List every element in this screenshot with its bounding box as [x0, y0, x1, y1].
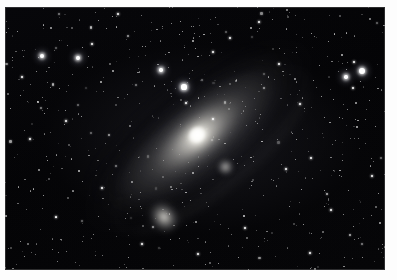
star	[117, 13, 120, 16]
star	[299, 103, 301, 105]
star	[40, 54, 44, 58]
star	[197, 253, 199, 255]
star	[309, 252, 311, 254]
star	[285, 168, 288, 171]
night-sky-plate	[5, 7, 385, 270]
star	[21, 76, 23, 78]
star	[344, 75, 347, 78]
star	[353, 61, 355, 63]
star	[55, 216, 58, 219]
photograph-frame	[0, 0, 397, 280]
star	[229, 37, 231, 39]
star	[212, 118, 214, 120]
star	[141, 243, 143, 245]
star	[29, 138, 31, 140]
star	[76, 56, 80, 60]
star	[371, 175, 373, 177]
star	[359, 68, 365, 74]
star	[65, 120, 67, 122]
star	[101, 187, 103, 189]
star	[352, 87, 354, 89]
bright-starfield	[5, 7, 385, 270]
star	[244, 227, 247, 230]
star	[258, 21, 261, 24]
star	[181, 84, 186, 89]
star	[91, 43, 93, 45]
star	[159, 68, 162, 71]
star	[330, 209, 332, 211]
star	[212, 51, 215, 54]
star	[185, 102, 187, 104]
star	[278, 63, 280, 65]
star	[310, 157, 312, 159]
